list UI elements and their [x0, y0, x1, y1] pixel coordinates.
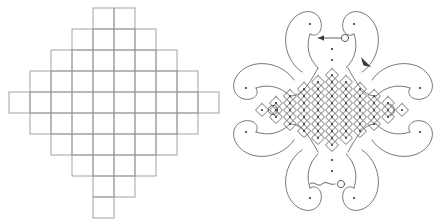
lattice-dot: [345, 137, 347, 139]
lattice-dot: [359, 109, 361, 111]
grid-cell: [114, 113, 135, 134]
grid-cell: [135, 92, 156, 113]
lattice-dot: [303, 116, 305, 118]
grid-cell: [177, 71, 198, 92]
lattice-dot: [345, 95, 347, 97]
grid-cell: [114, 134, 135, 155]
lattice-dot: [345, 88, 347, 90]
lattice-dot: [331, 88, 333, 90]
kolam-lattice-layer: [256, 69, 409, 152]
lattice-dot: [331, 81, 333, 83]
lattice-dot: [345, 109, 347, 111]
grid-cell: [93, 155, 114, 176]
grid-cell: [51, 50, 72, 71]
grid-cell: [114, 29, 135, 50]
grid-cell: [9, 92, 30, 113]
lattice-dot: [331, 130, 333, 132]
grid-cell: [51, 92, 72, 113]
grid-cell: [93, 113, 114, 134]
grid-cell: [51, 134, 72, 155]
grid-cell: [114, 8, 135, 29]
grid-cell: [93, 29, 114, 50]
lattice-dot: [345, 130, 347, 132]
grid-cell: [135, 29, 156, 50]
lattice-dot: [289, 102, 291, 104]
marker-direction-arrow: [361, 57, 371, 67]
lattice-dot: [303, 123, 305, 125]
lattice-dot: [303, 102, 305, 104]
lattice-dot: [317, 116, 319, 118]
grid-cell: [93, 71, 114, 92]
grid-cell: [114, 92, 135, 113]
grid-cell: [93, 8, 114, 29]
grid-cell: [51, 113, 72, 134]
grid-cell: [156, 92, 177, 113]
lattice-dot: [303, 88, 305, 90]
lattice-dot: [373, 95, 375, 97]
lattice-dot: [331, 109, 333, 111]
lattice-dot: [317, 109, 319, 111]
lattice-dot: [345, 116, 347, 118]
lattice-dot: [387, 102, 389, 104]
grid-cell: [72, 29, 93, 50]
figure-root: Stepped square grid and kolam loop desig…: [0, 0, 443, 222]
grid-cell: [135, 155, 156, 176]
grid-cell: [72, 92, 93, 113]
lattice-dot: [275, 116, 277, 118]
kolam-svg: [222, 0, 443, 222]
lattice-dot: [317, 130, 319, 132]
lattice-dot: [275, 109, 277, 111]
grid-cell: [156, 50, 177, 71]
grid-cell: [156, 71, 177, 92]
lattice-dot: [317, 81, 319, 83]
lattice-dot: [331, 123, 333, 125]
lattice-dot: [303, 109, 305, 111]
grid-cell: [135, 113, 156, 134]
lattice-dot: [359, 130, 361, 132]
marker-start-top: [318, 34, 349, 41]
grid-cell: [93, 50, 114, 71]
lattice-dot: [373, 123, 375, 125]
lattice-dot: [261, 109, 263, 111]
lattice-dot: [289, 109, 291, 111]
lobe-left: [234, 64, 294, 157]
grid-cell: [30, 92, 51, 113]
lattice-dot: [303, 130, 305, 132]
lattice-dot: [303, 95, 305, 97]
lattice-dot: [331, 137, 333, 139]
lattice-dot: [373, 102, 375, 104]
grid-cell: [72, 50, 93, 71]
grid-cell: [135, 50, 156, 71]
lattice-dot: [373, 116, 375, 118]
grid-cell: [114, 176, 135, 197]
left-panel-stepped-grid: [0, 0, 222, 222]
stepped-grid-svg: [0, 0, 222, 222]
lattice-dot: [289, 123, 291, 125]
lattice-dot: [359, 102, 361, 104]
grid-cell-layer: [9, 8, 219, 218]
grid-cell: [177, 92, 198, 113]
lattice-dot: [359, 123, 361, 125]
lattice-dot: [331, 102, 333, 104]
lattice-dot: [359, 95, 361, 97]
lattice-dot: [387, 116, 389, 118]
lattice-dot: [331, 74, 333, 76]
lattice-dot: [289, 95, 291, 97]
lattice-dot: [317, 123, 319, 125]
lattice-dot: [373, 109, 375, 111]
grid-cell: [93, 197, 114, 218]
lattice-dot: [401, 109, 403, 111]
lattice-dot: [331, 95, 333, 97]
grid-cell: [72, 113, 93, 134]
grid-cell: [156, 113, 177, 134]
lattice-dot: [345, 123, 347, 125]
grid-cell: [198, 92, 219, 113]
lattice-dot: [345, 102, 347, 104]
lattice-dot: [359, 88, 361, 90]
lattice-dot: [331, 144, 333, 146]
lattice-dot: [331, 116, 333, 118]
lattice-dot: [317, 137, 319, 139]
grid-cell: [93, 176, 114, 197]
grid-cell: [177, 113, 198, 134]
grid-cell: [72, 134, 93, 155]
